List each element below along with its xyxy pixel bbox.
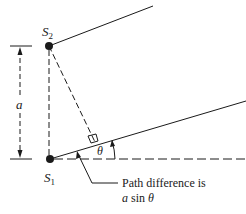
perpendicular-dashed <box>49 46 95 142</box>
label-s2: S2 <box>42 25 53 41</box>
arrow-down-icon <box>18 150 23 158</box>
source-s1-dot <box>46 155 54 163</box>
path-difference-caption: Path difference is a sin θ <box>122 176 206 206</box>
label-s1-sub: 1 <box>51 177 56 187</box>
label-theta: θ <box>97 145 103 157</box>
label-separation: a <box>16 98 23 111</box>
caption-fn-sin: sin <box>128 191 148 205</box>
caption-line-1: Path difference is <box>122 176 206 191</box>
caption-line-2: a sin θ <box>122 191 206 206</box>
caption-theta: θ <box>148 191 154 205</box>
callout-leader-line <box>79 156 118 183</box>
label-s2-sub: 2 <box>49 31 54 41</box>
label-s1: S1 <box>44 171 55 187</box>
arrow-up-icon <box>18 47 23 55</box>
source-s2-dot <box>45 42 53 50</box>
ray-from-s1 <box>50 101 246 159</box>
ray-from-s2 <box>49 6 153 46</box>
